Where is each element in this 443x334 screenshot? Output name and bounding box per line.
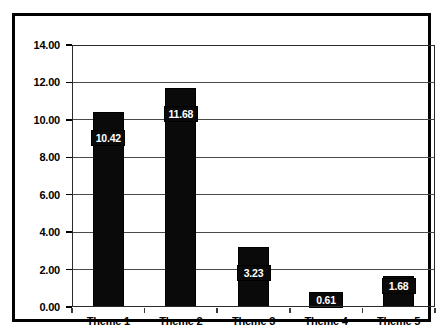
- y-axis-tick-label: 10.00: [12, 115, 60, 126]
- y-axis-tick-label: 14.00: [12, 40, 60, 51]
- y-axis-tick-label: 4.00: [12, 227, 60, 238]
- x-axis-category-label: Theme 1: [68, 316, 148, 327]
- gridline: [72, 157, 435, 158]
- bar-value-label: 1.68: [382, 278, 416, 294]
- gridline: [72, 232, 435, 233]
- x-axis-tick-mark: [71, 308, 73, 313]
- y-axis-tick-mark: [66, 269, 72, 271]
- x-axis-tick-mark: [362, 308, 364, 313]
- x-axis: Theme 1Theme 2Theme 3Theme 4Theme 5: [72, 308, 435, 334]
- y-axis-tick-mark: [66, 44, 72, 46]
- y-axis-tick-mark: [66, 194, 72, 196]
- bar-chart-figure: 10.4211.683.230.611.68 0.002.004.006.008…: [0, 0, 443, 334]
- bar-value-label: 3.23: [237, 265, 271, 281]
- gridline: [72, 82, 435, 83]
- gridline: [72, 119, 435, 120]
- y-axis-tick-label: 12.00: [12, 77, 60, 88]
- y-axis-tick-label: 6.00: [12, 190, 60, 201]
- plot-area: 10.4211.683.230.611.68: [72, 45, 435, 307]
- bar-value-label: 11.68: [164, 106, 198, 122]
- x-axis-tick-mark: [434, 308, 436, 313]
- y-axis-tick-mark: [66, 82, 72, 84]
- y-axis-tick-mark: [66, 119, 72, 121]
- chart-outer-frame: 10.4211.683.230.611.68 0.002.004.006.008…: [12, 13, 431, 322]
- x-axis-tick-mark: [144, 308, 146, 313]
- x-axis-tick-mark: [289, 308, 291, 313]
- x-axis-tick-mark: [216, 308, 218, 313]
- y-axis-tick-label: 2.00: [12, 265, 60, 276]
- x-axis-category-label: Theme 2: [141, 316, 221, 327]
- x-axis-category-label: Theme 4: [286, 316, 366, 327]
- bar-value-label: 0.61: [309, 292, 343, 308]
- y-axis-tick-mark: [66, 157, 72, 159]
- gridline: [72, 194, 435, 195]
- x-axis-category-label: Theme 3: [214, 316, 294, 327]
- y-axis-tick-label: 0.00: [12, 302, 60, 313]
- bar-value-label: 10.42: [91, 130, 125, 146]
- y-axis-tick-mark: [66, 231, 72, 233]
- x-axis-category-label: Theme 5: [359, 316, 439, 327]
- y-axis-tick-label: 8.00: [12, 152, 60, 163]
